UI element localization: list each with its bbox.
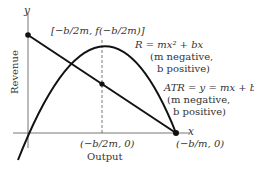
x-axis-label: x [188, 126, 194, 137]
revenue-equation: R = mx² + bx [135, 40, 203, 50]
atr-note-1: (m negative, [167, 95, 230, 105]
y-intercept-dot [25, 32, 31, 38]
x-intercept-dot [173, 130, 179, 136]
y-axis-title: Revenue [9, 50, 20, 94]
atr-note-2: b positive) [173, 107, 226, 117]
revenue-note-2: b positive) [157, 64, 210, 74]
midpoint-label: (−b/2m, 0) [80, 139, 135, 149]
midpoint-dot [99, 81, 104, 86]
atr-equation: ATR = y = mx + b [164, 83, 254, 93]
intercept-label: (−b/m, 0) [176, 139, 224, 149]
x-axis-title: Output [87, 152, 123, 162]
y-axis-label: y [24, 5, 30, 16]
revenue-diagram: y x Revenue Output [−b/2m, f(−b/2m)] R =… [0, 0, 254, 171]
vertex-label: [−b/2m, f(−b/2m)] [51, 26, 145, 36]
revenue-note-1: (m negative, [150, 52, 213, 62]
